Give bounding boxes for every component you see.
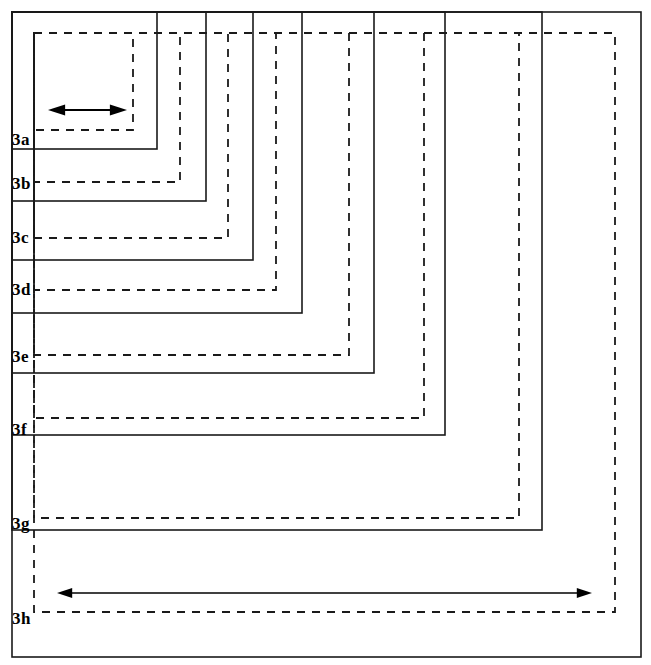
rectangle-label-3h: 3h xyxy=(12,610,31,627)
solid-rectangle-3h xyxy=(12,12,641,657)
rectangle-label-3d: 3d xyxy=(12,281,31,298)
solid-rectangle-group xyxy=(12,12,641,657)
nested-rectangles-svg xyxy=(0,0,651,665)
rectangle-label-3f: 3f xyxy=(12,421,27,438)
solid-rectangle-3b xyxy=(12,12,206,201)
solid-rectangle-3c xyxy=(12,12,253,260)
dashed-rectangle-3a xyxy=(34,33,133,130)
solid-rectangle-3f xyxy=(12,12,445,435)
figure-canvas: 3a3b3c3d3e3f3g3h xyxy=(0,0,651,665)
rectangle-label-3c: 3c xyxy=(12,229,29,246)
rectangle-label-3g: 3g xyxy=(12,515,30,532)
dashed-rectangle-3f xyxy=(34,33,424,418)
width-arrow-3h-head-left xyxy=(57,588,72,598)
dashed-rectangle-group xyxy=(34,33,615,612)
arrow-group xyxy=(48,104,592,598)
width-arrow-3a-head-right xyxy=(110,104,127,115)
dashed-rectangle-3d xyxy=(34,33,276,290)
width-arrow-3h-head-right xyxy=(577,588,592,598)
rectangle-label-3a: 3a xyxy=(12,131,30,148)
solid-rectangle-3e xyxy=(12,12,374,373)
width-arrow-3a-head-left xyxy=(48,104,65,115)
dashed-rectangle-3h xyxy=(34,33,615,612)
rectangle-label-3b: 3b xyxy=(12,175,31,192)
solid-rectangle-3g xyxy=(12,12,542,530)
dashed-rectangle-3c xyxy=(34,33,228,238)
rectangle-label-3e: 3e xyxy=(12,348,29,365)
